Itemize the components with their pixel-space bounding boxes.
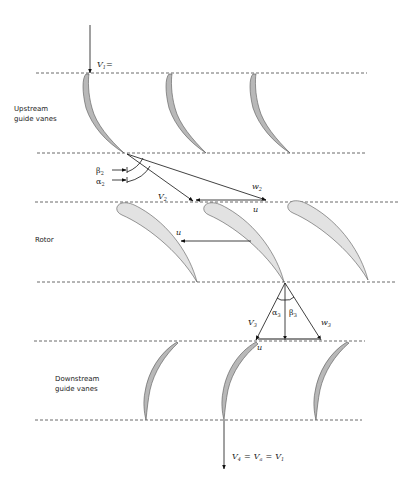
u-inlet-label: u (253, 205, 258, 214)
stage-labels: Upstream guide vanes Rotor Downstream gu… (14, 105, 100, 393)
alpha3-arc (277, 298, 285, 300)
downstream-guide-vanes (144, 342, 349, 420)
downstream-vane-2 (222, 342, 258, 420)
rotor-blade-1 (117, 203, 197, 282)
v3-label: V3 (248, 318, 257, 328)
outlet-velocity: V4=Va=V1 (224, 420, 284, 469)
rotor-blade-2 (204, 203, 284, 282)
upstream-guide-vanes (83, 74, 290, 153)
u-outlet-label: u (257, 343, 262, 352)
downstream-vane-1 (144, 342, 178, 420)
label-upstream-line1: Upstream (14, 105, 48, 113)
u-rotor-label: u (176, 228, 181, 237)
v1-label: V1= (97, 60, 113, 70)
downstream-vane-3 (314, 342, 349, 420)
label-downstream-line1: Downstream (55, 375, 100, 383)
rotor-outlet-labels: α3 β3 V3 w3 u (248, 308, 331, 352)
w3-label: w3 (321, 318, 331, 328)
w2-label: w2 (252, 182, 262, 192)
upstream-vane-1 (83, 74, 124, 153)
upstream-vane-3 (250, 74, 290, 153)
v3-arrow (256, 283, 285, 340)
rotor-inlet-triangle (112, 154, 266, 201)
label-downstream-line2: guide vanes (55, 385, 98, 393)
rotor-blade-3 (288, 201, 368, 280)
label-rotor: Rotor (35, 236, 54, 244)
alpha2-label: α2 (96, 177, 105, 187)
alpha3-label: α3 (272, 308, 281, 318)
w2-arrow (127, 154, 266, 200)
v4-label: V4=Va=V1 (232, 452, 284, 462)
v2-label: V2 (158, 192, 167, 202)
stage-diagram: Upstream guide vanes Rotor Downstream gu… (0, 0, 413, 493)
inlet-velocity: V1= (90, 25, 113, 73)
beta3-label: β3 (289, 308, 297, 318)
beta2-label: β2 (96, 166, 104, 176)
upstream-vane-2 (166, 74, 206, 153)
label-upstream-line2: guide vanes (14, 115, 57, 123)
beta3-arc (285, 297, 294, 300)
